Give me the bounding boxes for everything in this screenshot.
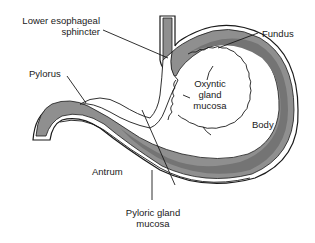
label-pyloric-line1: Pyloric gland [110,207,196,218]
label-oxyntic-line1: Oxyntic [182,78,238,89]
label-pylorus: Pylorus [29,68,61,79]
label-body: Body [252,119,274,130]
label-les-line2: sphincter [14,26,100,37]
label-les: Lower esophageal sphincter [14,15,100,37]
label-fundus: Fundus [262,28,294,39]
label-oxyntic-line3: mucosa [182,100,238,111]
label-pyloric-mucosa: Pyloric gland mucosa [110,207,196,229]
label-les-line1: Lower esophageal [14,15,100,26]
label-oxyntic-mucosa: Oxyntic gland mucosa [182,78,238,111]
stomach-wall [33,16,298,183]
label-oxyntic-line2: gland [182,89,238,100]
label-antrum: Antrum [92,166,123,177]
label-pyloric-line2: mucosa [110,218,196,229]
